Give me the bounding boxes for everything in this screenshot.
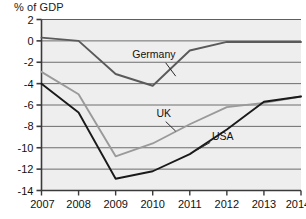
- y-tick-label: -12: [18, 163, 34, 175]
- gdp-deficit-line-chart: % of GDP 20-2-4-6-8-10-12-14 20072008200…: [0, 0, 306, 219]
- series-label-uk: UK: [156, 107, 171, 119]
- y-tick-label: -10: [18, 142, 34, 154]
- y-tick-label: -6: [24, 99, 34, 111]
- y-tick-label: 2: [27, 14, 33, 26]
- chart-plot-area: 20-2-4-6-8-10-12-14 20072008200920102011…: [0, 0, 306, 219]
- x-tick-label: 2008: [66, 198, 90, 210]
- x-tick-label: 2013: [252, 198, 276, 210]
- series-label-usa: USA: [212, 130, 234, 142]
- x-tick-label: 2009: [103, 198, 127, 210]
- y-axis-ticks: 20-2-4-6-8-10-12-14: [18, 14, 42, 197]
- x-tick-label: 2014: [286, 198, 306, 210]
- y-tick-label: -14: [18, 185, 34, 197]
- y-tick-label: -4: [24, 78, 34, 90]
- series-label-germany: Germany: [132, 48, 176, 60]
- x-tick-label: 2012: [215, 198, 239, 210]
- x-tick-label: 2011: [178, 198, 202, 210]
- y-tick-label: -8: [24, 120, 34, 132]
- y-tick-label: 0: [27, 35, 33, 47]
- x-tick-label: 2007: [30, 198, 54, 210]
- x-tick-label: 2010: [140, 198, 164, 210]
- x-axis-ticks: 20072008200920102011201220132014: [30, 191, 306, 210]
- y-tick-label: -2: [24, 56, 34, 68]
